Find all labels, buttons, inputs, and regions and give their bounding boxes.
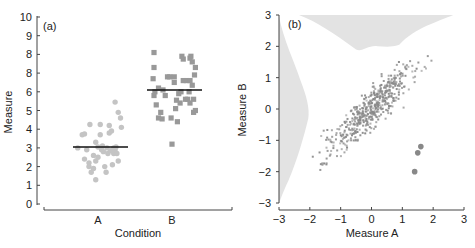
data-point	[396, 88, 398, 90]
data-point	[357, 119, 359, 121]
data-point	[430, 60, 432, 62]
data-point-square	[191, 97, 196, 102]
y-tick-label: 2	[26, 161, 32, 173]
data-point	[373, 87, 375, 89]
data-point	[326, 162, 328, 164]
data-point	[349, 129, 351, 131]
data-point-square	[193, 65, 198, 70]
data-point	[385, 118, 387, 120]
panel-a-y-label: Measure	[2, 91, 14, 134]
data-point-square	[151, 93, 156, 98]
x-tick-label: −1	[334, 213, 347, 225]
data-point	[343, 136, 345, 138]
data-point-circle	[102, 164, 107, 169]
data-point	[381, 75, 383, 77]
data-point	[398, 98, 400, 100]
data-point	[336, 155, 338, 157]
data-point-circle	[116, 110, 121, 115]
data-point	[373, 92, 375, 94]
data-point	[330, 153, 332, 155]
data-point	[351, 134, 353, 136]
data-point	[336, 132, 338, 134]
data-point	[401, 82, 403, 84]
data-point-square	[163, 93, 168, 98]
data-point	[400, 75, 402, 77]
x-tick-label: −2	[304, 213, 317, 225]
data-point	[345, 126, 347, 128]
data-point	[369, 132, 371, 134]
data-point	[403, 86, 405, 88]
data-point	[390, 80, 392, 82]
data-point	[326, 129, 328, 131]
panel-a-label: (a)	[43, 20, 56, 32]
y-tick-label: −2	[258, 166, 271, 178]
data-point	[368, 96, 370, 98]
data-point	[365, 124, 367, 126]
data-point	[366, 130, 368, 132]
data-point-circle	[91, 166, 96, 171]
data-point	[356, 117, 358, 119]
data-point	[414, 70, 416, 72]
data-point	[365, 119, 367, 121]
y-tick-label: −1	[258, 134, 271, 146]
data-point	[373, 128, 375, 130]
x-tick-label: A	[94, 214, 102, 226]
data-point	[394, 80, 396, 82]
data-point	[399, 78, 401, 80]
panel-b-x-axis: −3−2−10123	[273, 207, 467, 225]
data-point	[359, 115, 361, 117]
x-tick-label: 1	[399, 213, 405, 225]
data-point-square	[190, 83, 195, 88]
data-point	[404, 75, 406, 77]
data-point	[386, 85, 388, 87]
data-point	[354, 120, 356, 122]
data-point	[355, 139, 357, 141]
data-point	[427, 55, 429, 57]
data-point	[355, 130, 357, 132]
outlier-point	[418, 144, 424, 150]
x-tick-label: 2	[430, 213, 436, 225]
data-point	[379, 95, 381, 97]
data-point	[417, 62, 419, 64]
data-point-circle	[98, 132, 103, 137]
data-point-circle	[116, 158, 121, 163]
y-tick-label: 6	[26, 86, 32, 98]
data-point	[346, 149, 348, 151]
data-point	[336, 149, 338, 151]
data-point	[374, 94, 376, 96]
data-point	[387, 82, 389, 84]
y-tick-label: 10	[20, 11, 32, 23]
data-point	[364, 115, 366, 117]
data-point	[404, 66, 406, 68]
data-point-circle	[75, 145, 80, 150]
panel-b: −3−2−10123 −3−2−10123 (b) Measure B Meas…	[236, 9, 467, 239]
data-point	[382, 111, 384, 113]
data-point	[392, 97, 394, 99]
data-point	[397, 74, 399, 76]
panel-a-mean-lines	[73, 90, 202, 147]
data-point	[379, 107, 381, 109]
data-point	[319, 169, 321, 171]
data-point	[341, 135, 343, 137]
data-point	[359, 129, 361, 131]
data-point	[395, 81, 397, 83]
data-point	[376, 116, 378, 118]
y-tick-label: 1	[26, 179, 32, 191]
data-point	[365, 108, 367, 110]
data-point-square	[151, 65, 156, 70]
y-tick-label: 3	[265, 9, 271, 21]
top-density	[299, 15, 453, 50]
data-point	[384, 94, 386, 96]
data-point	[369, 100, 371, 102]
data-point	[332, 145, 334, 147]
panel-b-y-axis: −3−2−10123	[258, 9, 279, 209]
data-point	[375, 107, 377, 109]
data-point	[365, 111, 367, 113]
data-point	[380, 84, 382, 86]
data-point	[325, 147, 327, 149]
data-point	[372, 107, 374, 109]
data-point	[345, 121, 347, 123]
data-point	[399, 73, 401, 75]
data-point	[351, 129, 353, 131]
left-density	[279, 17, 309, 203]
